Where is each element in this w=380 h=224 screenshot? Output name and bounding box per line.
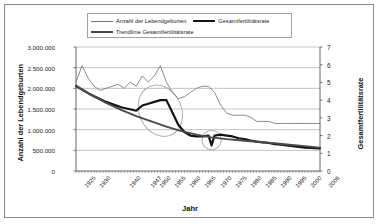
series-line-2 (76, 86, 320, 148)
x-tick-label: 1925 (83, 175, 96, 189)
legend-line-thin-icon (91, 21, 113, 22)
series-line-0 (76, 66, 320, 124)
y-tick-label-right: 4 (327, 97, 331, 104)
y-tick-label-left: 0 (52, 168, 55, 175)
x-tick-label: 1965 (204, 175, 217, 189)
y-tick-label-right: 5 (327, 79, 331, 86)
x-tick-label: 2006 (327, 175, 340, 189)
x-tick-label: 1985 (264, 175, 277, 189)
legend-line-mid-icon (91, 31, 113, 33)
x-tick-label: 1995 (294, 175, 307, 189)
y-tick-label-right: 2 (327, 132, 331, 139)
legend-line-thick-icon (193, 20, 215, 22)
y-tick-label-right: 3 (327, 114, 331, 121)
legend-item-lebendgeburten: Anzahl der Lebendgeburten (91, 18, 186, 24)
x-tick-label: 1930 (98, 175, 111, 189)
x-tick-label: 1975 (234, 175, 247, 189)
x-tick-label: 1960 (189, 175, 202, 189)
x-tick-label: 1955 (174, 175, 187, 189)
plot-area (76, 47, 320, 171)
y-tick-label-left: 2.000.000 (27, 85, 55, 92)
legend-row-1: Anzahl der Lebendgeburten Gesamtfertilit… (91, 16, 288, 26)
y-axis-left-title: Anzahl der Lebendgeburten (10, 65, 32, 160)
legend-item-gesamtfertilitaetsrate: Gesamtfertilitätsrate (193, 18, 269, 24)
plot-svg (76, 47, 320, 171)
y-axis-left-title-text: Anzahl der Lebendgeburten (16, 64, 26, 162)
chart-canvas: Anzahl der Lebendgeburten Gesamtfertilit… (5, 5, 373, 217)
x-tick-label: 2000 (309, 175, 322, 189)
x-tick-label: 1970 (219, 175, 232, 189)
x-tick-label: 1940 (129, 175, 142, 189)
series-line-1 (76, 86, 320, 148)
y-tick-label-right: 0 (327, 168, 331, 175)
legend-label-trendlinie: Trendlinie Gesamtfertilitätsrate (116, 29, 194, 35)
legend-row-2: Trendlinie Gesamtfertilitätsrate (91, 27, 288, 37)
x-tick-label: 1990 (279, 175, 292, 189)
y-tick-label-left: 3.000.000 (27, 44, 55, 51)
y-axis-right-title: Gesamtfertilitätsrate (350, 63, 372, 163)
y-tick-label-right: 1 (327, 150, 331, 157)
annotation-ellipse-highlight-pillenknick (202, 130, 221, 149)
legend-item-trendlinie: Trendlinie Gesamtfertilitätsrate (91, 29, 194, 35)
y-tick-label-left: 500.000 (33, 147, 55, 154)
x-axis-title: Jahr (5, 204, 375, 213)
y-tick-label-right: 6 (327, 61, 331, 68)
chart-frame: Anzahl der Lebendgeburten Gesamtfertilit… (4, 4, 374, 218)
annotation-ellipse-highlight-babyboom (130, 78, 191, 144)
x-tick-label: 1980 (249, 175, 262, 189)
chart-legend: Anzahl der Lebendgeburten Gesamtfertilit… (87, 13, 292, 38)
y-tick-label-left: 1.500.000 (27, 106, 55, 113)
y-tick-label-right: 7 (327, 44, 331, 51)
y-axis-right-title-text: Gesamtfertilitätsrate (357, 77, 366, 149)
y-tick-label-left: 2.500.000 (27, 64, 55, 71)
y-tick-label-left: 1.000.000 (27, 126, 55, 133)
legend-label-lebendgeburten: Anzahl der Lebendgeburten (116, 18, 186, 24)
legend-label-gesamtfertilitaetsrate: Gesamtfertilitätsrate (218, 18, 269, 24)
